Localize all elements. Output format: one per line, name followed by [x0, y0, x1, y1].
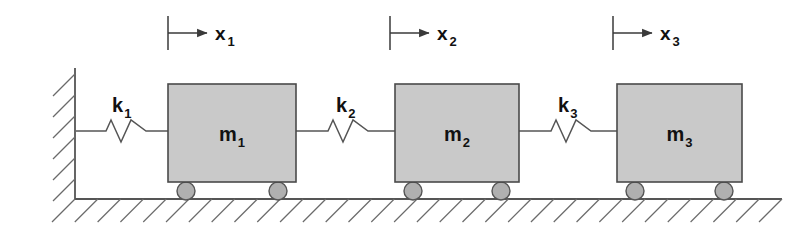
mass-m2: m2 [395, 84, 519, 200]
ground-hatch-line [326, 199, 349, 222]
ground-hatch-line [257, 199, 280, 222]
ground-hatch-line [531, 199, 554, 222]
wheel-m2-1 [404, 182, 422, 200]
displacement-x2: x2 [390, 16, 457, 50]
spring-label-subscript: 1 [124, 106, 131, 121]
ground-hatch-line [371, 199, 394, 222]
spring-label-k3: k3 [558, 94, 577, 121]
fixed-wall [53, 68, 75, 201]
displacement-x3: x3 [613, 16, 680, 50]
wall-hatch-line [53, 179, 75, 201]
wall-hatch-line [53, 116, 75, 138]
spring-label-base: k [112, 94, 124, 116]
displacement-label-subscript: 2 [450, 34, 457, 49]
ground-hatch-line [75, 199, 98, 222]
spring-label-base: k [558, 94, 570, 116]
mass-label-base: m [666, 123, 684, 145]
mass-label-subscript: 1 [238, 135, 245, 150]
mass-group: m1m2m3 [168, 84, 742, 200]
ground-hatch-line [463, 199, 486, 222]
ground-hatch-line [759, 199, 782, 222]
ground-hatch-line [599, 199, 622, 222]
displacement-label-base: x [660, 23, 671, 44]
mass-label-subscript: 3 [685, 135, 692, 150]
mass-m3: m3 [617, 84, 742, 200]
displacement-label-base: x [437, 23, 448, 44]
ground-hatch-line [417, 199, 440, 222]
ground-hatch-line [554, 199, 577, 222]
displacement-label-subscript: 3 [673, 34, 680, 49]
spring-k3: k3 [519, 94, 617, 142]
ground-hatch-line [212, 199, 235, 222]
ground-hatch-line [166, 199, 189, 222]
mass-label-base: m [444, 123, 462, 145]
spring-k1: k1 [76, 94, 168, 142]
spring-label-subscript: 3 [570, 106, 577, 121]
ground-hatch-line [52, 199, 75, 222]
displacement-label-base: x [215, 23, 226, 44]
ground-hatch-line [736, 199, 759, 222]
ground-hatch-line [303, 199, 326, 222]
mass-spring-diagram: k1k2k3 m1m2m3 x1x2x3 [0, 0, 812, 237]
wheel-m1-1 [177, 182, 195, 200]
ground-hatch-line [577, 199, 600, 222]
spring-label-k1: k1 [112, 94, 131, 121]
spring-label-subscript: 2 [348, 106, 355, 121]
wall-hatch-line [53, 74, 75, 96]
wheel-m2-2 [492, 182, 510, 200]
displacement-label-subscript: 1 [228, 34, 235, 49]
ground-surface [52, 199, 782, 222]
ground-hatch-line [234, 199, 257, 222]
spring-group: k1k2k3 [76, 94, 617, 142]
displacement-x1: x1 [168, 16, 235, 50]
spring-coil-k2 [296, 120, 395, 142]
ground-hatch-line [98, 199, 121, 222]
ground-hatch-line [485, 199, 508, 222]
mass-spring-schematic-canvas: k1k2k3 m1m2m3 x1x2x3 [0, 0, 812, 237]
wheel-m1-2 [269, 182, 287, 200]
ground-hatch-line [645, 199, 668, 222]
mass-m1: m1 [168, 84, 296, 200]
ground-hatch-line [143, 199, 166, 222]
displacement-label-x2: x2 [437, 23, 457, 49]
ground-hatch-line [440, 199, 463, 222]
wall-hatch-line [53, 95, 75, 117]
spring-coil-k1 [76, 120, 168, 142]
ground-hatch-line [120, 199, 143, 222]
displacement-marker-group: x1x2x3 [168, 16, 680, 50]
ground-hatch-line [189, 199, 212, 222]
ground-hatch-line [348, 199, 371, 222]
ground-hatch-line [280, 199, 303, 222]
ground-hatch-line [691, 199, 714, 222]
spring-k2: k2 [296, 94, 395, 142]
wheel-m3-2 [715, 182, 733, 200]
spring-label-base: k [336, 94, 348, 116]
wheel-m3-1 [626, 182, 644, 200]
wall-hatch-line [53, 158, 75, 180]
spring-label-k2: k2 [336, 94, 355, 121]
spring-coil-k3 [519, 120, 617, 142]
mass-label-base: m [219, 123, 237, 145]
ground-hatch-line [622, 199, 645, 222]
ground-hatch-line [394, 199, 417, 222]
ground-hatch-line [508, 199, 531, 222]
wall-hatch-line [53, 137, 75, 159]
displacement-label-x1: x1 [215, 23, 235, 49]
ground-hatch-line [713, 199, 736, 222]
ground-hatch-line [668, 199, 691, 222]
displacement-label-x3: x3 [660, 23, 680, 49]
mass-label-subscript: 2 [463, 135, 470, 150]
